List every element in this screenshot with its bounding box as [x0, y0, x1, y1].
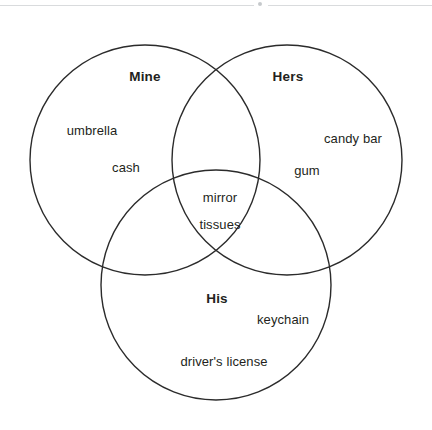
set-title-his: His [206, 292, 228, 306]
set-title-mine: Mine [129, 70, 161, 84]
item-all-three-1: tissues [199, 218, 240, 231]
item-his-1: driver's license [180, 355, 267, 368]
item-mine-0: umbrella [67, 124, 118, 137]
set-title-hers: Hers [273, 70, 304, 84]
item-all-three-0: mirror [203, 191, 238, 204]
item-hers-1: gum [294, 164, 320, 177]
item-hers-0: candy bar [324, 132, 382, 145]
item-mine-1: cash [112, 161, 140, 174]
venn-diagram-page: MineumbrellacashHerscandy bargumHiskeych… [0, 0, 432, 430]
item-his-0: keychain [257, 313, 309, 326]
